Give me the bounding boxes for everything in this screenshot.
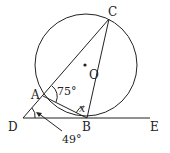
angle-label-49: 49° — [62, 133, 82, 146]
label-a: A — [30, 88, 40, 102]
arrow-49-head — [36, 112, 42, 117]
label-b: B — [82, 120, 91, 134]
angle-label-x: x — [79, 102, 86, 115]
label-c: C — [108, 5, 117, 19]
angle-arc-49 — [32, 108, 35, 118]
angle-label-75: 75° — [57, 85, 77, 98]
arrow-49-line — [38, 113, 62, 131]
geometry-figure: C O A D B E 75° x 49° — [0, 0, 170, 153]
label-e: E — [150, 120, 159, 134]
label-d: D — [8, 120, 18, 134]
label-o: O — [89, 68, 99, 82]
center-dot-o — [83, 63, 86, 66]
